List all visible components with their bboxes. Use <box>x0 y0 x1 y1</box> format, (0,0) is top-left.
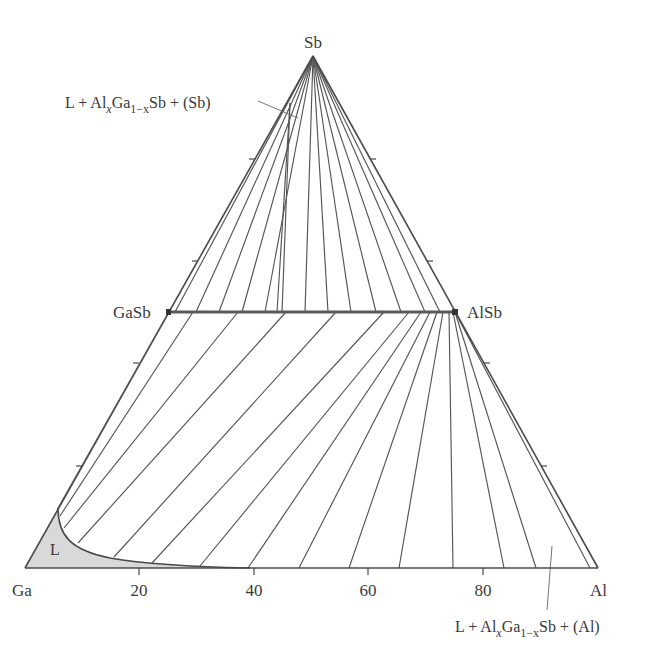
lower-three-phase-label: L + AlxGa1−xSb + (Al) <box>455 618 600 640</box>
axis-tick-20: 20 <box>131 581 148 600</box>
alsb-point <box>452 309 458 315</box>
compound-label-alsb: AlSb <box>467 303 502 322</box>
upper-tie-lines <box>175 56 440 312</box>
axis-tick-60: 60 <box>360 581 377 600</box>
liquid-region-label: L <box>50 541 60 558</box>
vertex-label-sb: Sb <box>304 33 322 52</box>
compound-label-gasb: GaSb <box>113 303 151 322</box>
axis-tick-40: 40 <box>246 581 263 600</box>
bottom-axis-ticks <box>139 568 483 575</box>
lower-tie-lines <box>60 312 590 568</box>
axis-tick-80: 80 <box>475 581 492 600</box>
ternary-phase-diagram: Sb Ga Al GaSb AlSb 20 40 60 80 L L + Alx… <box>0 0 653 657</box>
gasb-point <box>166 309 171 315</box>
lower-region-leader <box>547 546 552 610</box>
vertex-label-ga: Ga <box>12 581 32 600</box>
upper-three-phase-label: L + AlxGa1−xSb + (Sb) <box>65 94 211 116</box>
vertex-label-al: Al <box>590 581 607 600</box>
upper-region-leader <box>258 101 298 118</box>
